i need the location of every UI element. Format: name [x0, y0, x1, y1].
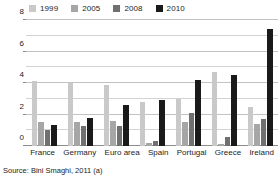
bar-2005-euro-area[interactable]: [110, 121, 116, 146]
legend-swatch-icon: [113, 5, 120, 12]
y-axis: 02468: [13, 20, 26, 146]
bar-1999-spain[interactable]: [140, 102, 146, 146]
y-tick-label: 4: [20, 71, 24, 79]
legend-item-2010[interactable]: 2010: [156, 4, 185, 13]
chart-legend: 1999200520082010: [0, 0, 280, 16]
bar-1999-greece[interactable]: [212, 72, 218, 146]
bar-group-germany: [67, 20, 93, 146]
legend-label: 2005: [82, 4, 100, 13]
x-label-spain: Spain: [148, 148, 168, 158]
bar-group-greece: [211, 20, 237, 146]
bar-2010-spain[interactable]: [159, 100, 165, 146]
bar-group-portugal: [175, 20, 201, 146]
bar-1999-germany[interactable]: [68, 83, 74, 146]
legend-swatch-icon: [156, 5, 163, 12]
y-tick-label: 2: [20, 103, 24, 111]
legend-item-2008[interactable]: 2008: [113, 4, 142, 13]
x-label-ireland: Ireland: [249, 148, 273, 158]
bar-2010-ireland[interactable]: [267, 29, 273, 146]
x-label-portugal: Portugal: [177, 148, 207, 158]
legend-label: 2010: [167, 4, 185, 13]
bar-2010-germany[interactable]: [87, 118, 93, 146]
y-tick-label: 6: [20, 40, 24, 48]
bar-2010-greece[interactable]: [231, 75, 237, 146]
bar-2008-france[interactable]: [45, 130, 51, 146]
bar-group-ireland: [247, 20, 273, 146]
x-label-euro-area: Euro area: [105, 148, 140, 158]
bar-2008-spain[interactable]: [153, 141, 159, 146]
legend-label: 1999: [40, 4, 58, 13]
bar-1999-ireland[interactable]: [248, 107, 254, 146]
bar-2010-france[interactable]: [51, 125, 57, 146]
source-note: Source: Bini Smaghi, 2011 (a): [3, 166, 103, 175]
bar-2010-euro-area[interactable]: [123, 105, 129, 146]
bar-groups: [26, 20, 278, 146]
x-label-greece: Greece: [215, 148, 241, 158]
bar-2008-greece[interactable]: [225, 137, 231, 146]
bar-2005-france[interactable]: [38, 122, 44, 146]
legend-item-2005[interactable]: 2005: [71, 4, 100, 13]
bar-2005-greece[interactable]: [218, 144, 224, 146]
bar-2008-germany[interactable]: [81, 126, 87, 146]
bar-2005-portugal[interactable]: [182, 122, 188, 146]
plot-area: 02468: [13, 20, 278, 146]
y-tick-label: 8: [20, 8, 24, 16]
bar-2005-ireland[interactable]: [254, 124, 260, 146]
bar-group-spain: [139, 20, 165, 146]
bar-1999-euro-area[interactable]: [104, 85, 110, 146]
bar-2010-portugal[interactable]: [195, 80, 201, 146]
bar-1999-portugal[interactable]: [176, 99, 182, 146]
chart-figure: 1999200520082010 02468 FranceGermanyEuro…: [0, 0, 280, 179]
bar-2008-euro-area[interactable]: [117, 126, 123, 146]
legend-swatch-icon: [29, 5, 36, 12]
bar-2005-germany[interactable]: [74, 122, 80, 146]
x-label-france: France: [30, 148, 55, 158]
bar-2008-portugal[interactable]: [189, 113, 195, 146]
bar-2005-spain[interactable]: [146, 143, 152, 146]
x-label-germany: Germany: [63, 148, 96, 158]
bar-group-euro-area: [103, 20, 129, 146]
bar-2008-ireland[interactable]: [261, 119, 267, 146]
bar-1999-france[interactable]: [32, 81, 38, 146]
legend-swatch-icon: [71, 5, 78, 12]
bar-group-france: [31, 20, 57, 146]
y-tick-label: 0: [20, 134, 24, 142]
legend-label: 2008: [124, 4, 142, 13]
x-axis-labels: FranceGermanyEuro areaSpainPortugalGreec…: [26, 148, 278, 161]
legend-item-1999[interactable]: 1999: [29, 4, 58, 13]
